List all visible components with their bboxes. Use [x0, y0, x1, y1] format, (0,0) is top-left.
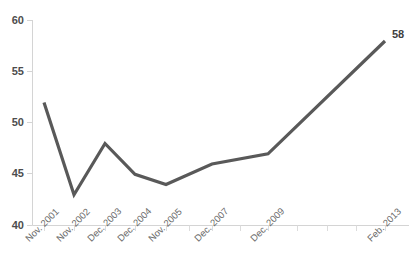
y-axis-label-40: 40: [0, 219, 24, 231]
y-axis-label-60: 60: [0, 14, 24, 26]
y-axis-label-50: 50: [0, 116, 24, 128]
line-chart: 60 55 50 45 40 Nov. 2001 Nov. 2002 Dec. …: [0, 0, 411, 277]
y-axis-ticks: [27, 21, 33, 226]
series-line: [44, 41, 385, 195]
y-axis-label-55: 55: [0, 65, 24, 77]
y-axis-label-45: 45: [0, 167, 24, 179]
data-label-last-point: 58: [392, 28, 404, 40]
